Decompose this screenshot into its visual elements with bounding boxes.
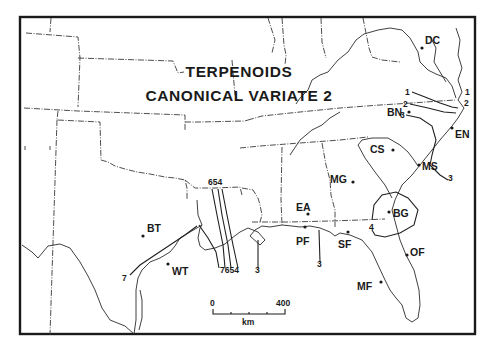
scale-unit-label: km: [242, 317, 255, 327]
site-marker-icon: [405, 253, 408, 256]
site-marker-icon: [420, 46, 423, 49]
site-marker-icon: [166, 262, 169, 265]
site-marker-icon: [417, 163, 420, 166]
site-marker-icon: [387, 210, 390, 213]
site-label: EN: [455, 128, 470, 140]
isoline-label: 7654: [220, 265, 239, 275]
site-label: EA: [296, 201, 311, 213]
site-label: MS: [422, 160, 438, 172]
site-label: MG: [330, 173, 347, 185]
site-label: BG: [393, 207, 409, 219]
site-marker-icon: [303, 225, 306, 228]
isoline-label: 2: [464, 98, 469, 108]
site-label: OF: [410, 246, 425, 258]
isoline-label: 7: [122, 273, 127, 283]
site-marker-icon: [450, 126, 453, 129]
site-label: WT: [172, 265, 189, 277]
site-label: SF: [338, 238, 352, 250]
site-label: BT: [147, 222, 162, 234]
isoline-label: 1: [405, 87, 410, 97]
site-label: PF: [296, 235, 310, 247]
map-figure: TERPENOIDS CANONICAL VARIATE 2 DCBNENCSM…: [0, 0, 490, 351]
site-marker-icon: [346, 230, 349, 233]
scale-min-label: 0: [210, 298, 215, 308]
isoline-label: 1: [465, 87, 470, 97]
title-line-2: CANONICAL VARIATE 2: [145, 87, 332, 104]
site-label: MF: [357, 280, 373, 292]
site-label: CS: [370, 143, 385, 155]
isoline-label: 4: [369, 222, 374, 232]
site-marker-icon: [407, 110, 410, 113]
site-marker-icon: [141, 234, 144, 237]
title-line-1: TERPENOIDS: [186, 63, 293, 80]
site-marker-icon: [351, 180, 354, 183]
site-label: DC: [425, 34, 441, 46]
isoline-label: 3: [448, 173, 453, 183]
isoline-label: 3: [317, 259, 322, 269]
isoline-label: 654: [208, 177, 222, 187]
scale-max-label: 400: [276, 298, 290, 308]
isoline-label: 3: [255, 265, 260, 275]
isoline-label: 2: [403, 99, 408, 109]
site-marker-icon: [379, 280, 382, 283]
site-marker-icon: [391, 148, 394, 151]
isoline-label: 3: [400, 110, 405, 120]
